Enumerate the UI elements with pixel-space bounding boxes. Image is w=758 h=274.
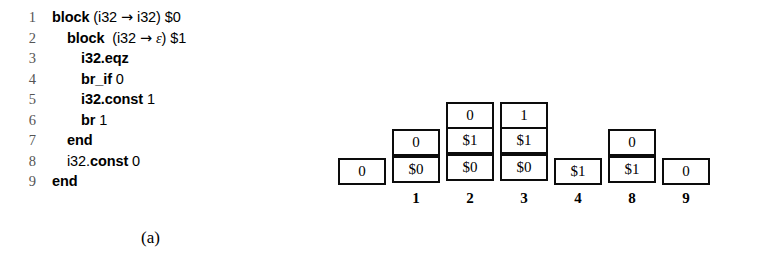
code-token: 0 bbox=[128, 153, 140, 169]
stack-column: $0$10 bbox=[446, 104, 494, 181]
code-listing: 1block (i32 → i32) $02block (i32 → ε) $1… bbox=[14, 9, 186, 194]
code-token: end bbox=[67, 132, 92, 148]
code-line-number: 8 bbox=[14, 153, 36, 170]
code-line: 1block (i32 → i32) $0 bbox=[14, 9, 186, 30]
code-token: 0 bbox=[112, 71, 124, 87]
code-line-text: i32.eqz bbox=[52, 50, 129, 66]
stack-column: $0$11 bbox=[500, 104, 548, 181]
code-line-text: br_if 0 bbox=[52, 71, 124, 87]
stack-column: $10 bbox=[608, 131, 656, 183]
stack-cell: 0 bbox=[662, 158, 710, 185]
code-token: i32) $0 bbox=[133, 9, 181, 25]
stack-cell: 0 bbox=[446, 102, 494, 129]
stack-column: $00 bbox=[392, 131, 440, 183]
code-line-number: 1 bbox=[14, 9, 36, 26]
code-line: 5i32.const 1 bbox=[14, 91, 186, 112]
stack-column-label: 1 bbox=[392, 190, 440, 207]
code-line: 2block (i32 → ε) $1 bbox=[14, 30, 186, 51]
code-line-text: br 1 bbox=[52, 112, 107, 128]
code-token: block bbox=[67, 30, 104, 46]
code-token: block bbox=[52, 9, 89, 25]
code-line-text: block (i32 → i32) $0 bbox=[52, 9, 181, 25]
code-line-number: 6 bbox=[14, 112, 36, 129]
code-line-number: 5 bbox=[14, 91, 36, 108]
code-line: 6br 1 bbox=[14, 112, 186, 133]
code-token: end bbox=[52, 173, 77, 189]
code-line-text: end bbox=[52, 173, 77, 189]
code-line: 4br_if 0 bbox=[14, 71, 186, 92]
stack-column-label: 9 bbox=[662, 190, 710, 207]
stack-cell: $1 bbox=[446, 127, 494, 154]
code-token: → bbox=[121, 9, 133, 25]
stack-cell: $0 bbox=[500, 154, 548, 181]
stack-column-label: 8 bbox=[608, 190, 656, 207]
stack-cell: $1 bbox=[608, 156, 656, 183]
figure-a-code-listing: 1block (i32 → i32) $02block (i32 → ε) $1… bbox=[0, 0, 330, 274]
stack-column: $1 bbox=[554, 158, 602, 185]
code-line: 3i32.eqz bbox=[14, 50, 186, 71]
code-token: (i32 bbox=[89, 9, 121, 25]
code-line-number: 7 bbox=[14, 132, 36, 149]
code-token: i32.const bbox=[81, 91, 143, 107]
stack-column: 0 bbox=[662, 158, 710, 185]
code-line-number: 9 bbox=[14, 173, 36, 190]
code-line-number: 4 bbox=[14, 71, 36, 88]
code-line: 8i32.const 0 bbox=[14, 153, 186, 174]
code-line-text: end bbox=[52, 132, 92, 148]
code-token: br bbox=[81, 112, 95, 128]
code-token: i32.eqz bbox=[81, 50, 129, 66]
stack-column: 0 bbox=[338, 158, 386, 185]
code-token: 1 bbox=[143, 91, 155, 107]
code-line: 7end bbox=[14, 132, 186, 153]
code-line-text: i32.const 1 bbox=[52, 91, 155, 107]
code-line-number: 3 bbox=[14, 50, 36, 67]
code-line-number: 2 bbox=[14, 30, 36, 47]
stack-cell: $1 bbox=[500, 127, 548, 154]
code-token: ) $1 bbox=[162, 30, 187, 46]
code-token: i32. bbox=[67, 153, 90, 169]
code-line: 9end bbox=[14, 173, 186, 194]
stack-column-label: 4 bbox=[554, 190, 602, 207]
stack-cell: 1 bbox=[500, 102, 548, 129]
code-token: br_if bbox=[81, 71, 112, 87]
stack-cell: $0 bbox=[446, 154, 494, 181]
code-line-text: block (i32 → ε) $1 bbox=[52, 30, 186, 47]
code-token: const bbox=[90, 153, 128, 169]
figure-b-stack-diagram: 0$001$0$102$0$113$14$10809 (b) bbox=[330, 0, 758, 274]
code-token: 1 bbox=[95, 112, 107, 128]
code-token: (i32 bbox=[104, 30, 140, 46]
stack-cell: 0 bbox=[608, 129, 656, 156]
stack-column-label: 3 bbox=[500, 190, 548, 207]
stack-cell: $0 bbox=[392, 156, 440, 183]
stack-cell: 0 bbox=[338, 158, 386, 185]
stack-cell: 0 bbox=[392, 129, 440, 156]
code-token: → bbox=[140, 30, 152, 46]
stack-cell: $1 bbox=[554, 158, 602, 185]
code-line-text: i32.const 0 bbox=[52, 153, 140, 169]
stack-column-label: 2 bbox=[446, 190, 494, 207]
figure-a-caption: (a) bbox=[141, 228, 160, 248]
